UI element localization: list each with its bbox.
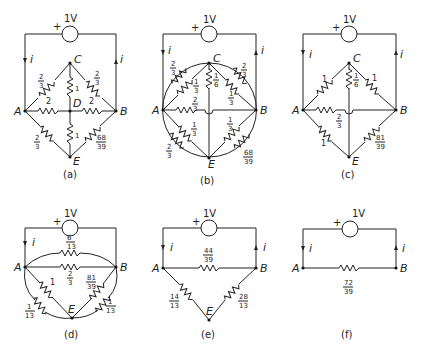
resistor-icon	[339, 265, 359, 271]
svg-text:E: E	[206, 305, 213, 318]
panel-e: 1V + i i 44 39 14 13 28 13 A B E (e)	[151, 208, 268, 340]
svg-text:i: i	[168, 44, 171, 57]
svg-text:B: B	[400, 262, 408, 275]
svg-text:2: 2	[68, 270, 72, 278]
svg-text:13: 13	[67, 243, 76, 251]
resistor-icon	[176, 78, 194, 96]
caption-d: (d)	[64, 329, 78, 340]
svg-text:3: 3	[242, 71, 246, 79]
svg-text:44: 44	[204, 247, 213, 255]
node-label-d: D	[73, 97, 81, 110]
node-label-a: A	[13, 105, 22, 118]
svg-text:13: 13	[25, 312, 34, 320]
svg-text:1V: 1V	[203, 208, 216, 219]
svg-text:3: 3	[337, 122, 341, 130]
svg-text:13: 13	[106, 307, 115, 315]
svg-text:i: i	[32, 236, 35, 249]
svg-text:i: i	[170, 241, 173, 254]
caption-e: (e)	[201, 329, 215, 340]
panel-c: 1V + i i 1 1 1 6 2 3 1 81 39	[291, 14, 408, 180]
svg-text:3: 3	[194, 87, 198, 95]
svg-text:3: 3	[68, 279, 72, 287]
svg-text:A: A	[151, 262, 160, 275]
resistor-icon	[38, 108, 58, 114]
svg-text:81: 81	[87, 274, 96, 282]
svg-text:A: A	[13, 261, 22, 274]
svg-text:68: 68	[244, 149, 253, 157]
svg-text:6: 6	[214, 81, 219, 89]
svg-text:i: i	[261, 44, 264, 57]
arrow-up-icon	[254, 245, 258, 250]
svg-text:1: 1	[214, 72, 218, 80]
svg-text:1: 1	[372, 74, 377, 83]
svg-text:1V: 1V	[64, 208, 77, 219]
panel-d: 1V + i 6 13 2 3 1 1 13 81 39 1	[13, 208, 128, 340]
svg-text:39: 39	[97, 143, 106, 151]
svg-text:E: E	[352, 155, 359, 168]
arrow-down-icon	[23, 58, 27, 63]
plus-sign: +	[53, 21, 61, 32]
svg-text:1: 1	[228, 116, 232, 124]
voltage-source-icon	[62, 26, 78, 42]
svg-text:i: i	[263, 241, 266, 254]
panel-a: 1V + i i 2 3 2 3 1 2 2 1 2	[13, 13, 128, 180]
svg-text:3: 3	[35, 143, 39, 151]
arrow-up-icon	[394, 245, 398, 250]
svg-text:C: C	[213, 52, 221, 65]
svg-text:3: 3	[228, 125, 232, 133]
svg-text:+: +	[333, 217, 341, 228]
svg-text:i: i	[400, 48, 403, 61]
svg-text:1: 1	[321, 139, 326, 148]
node-label-e: E	[73, 155, 80, 168]
resistor-icon	[67, 77, 73, 97]
svg-text:i: i	[309, 48, 312, 61]
voltage-source-icon	[201, 220, 217, 236]
svg-text:1: 1	[192, 121, 196, 129]
source-label: 1V	[64, 13, 77, 24]
current-label: i	[30, 53, 33, 66]
arrow-up-icon	[254, 50, 258, 55]
svg-text:A: A	[291, 262, 300, 275]
svg-text:1V: 1V	[343, 14, 356, 25]
caption-b: (b)	[200, 175, 214, 186]
svg-text:3: 3	[229, 99, 233, 107]
svg-text:39: 39	[344, 288, 353, 296]
svg-text:2: 2	[89, 97, 94, 106]
svg-text:1: 1	[27, 303, 31, 311]
svg-text:13: 13	[170, 302, 179, 310]
resistor-icon	[206, 69, 212, 89]
svg-text:1: 1	[75, 85, 79, 93]
arrow-up-icon	[114, 59, 118, 64]
svg-text:B: B	[120, 261, 128, 274]
svg-text:3: 3	[95, 79, 99, 87]
svg-text:68: 68	[97, 134, 106, 142]
svg-text:+: +	[53, 216, 61, 227]
svg-text:E: E	[208, 158, 215, 171]
svg-text:13: 13	[239, 302, 248, 310]
svg-text:1V: 1V	[352, 208, 365, 219]
svg-text:3: 3	[167, 152, 171, 160]
node-label-b: B	[120, 105, 128, 118]
resistor-icon	[316, 107, 336, 113]
arrow-down-icon	[23, 241, 27, 246]
svg-text:B: B	[260, 262, 268, 275]
panel-b: 1V + i i 2 3 2 3 2 3 68 39 1 3 1	[151, 14, 268, 186]
svg-text:3: 3	[171, 69, 175, 77]
resistor-icon	[67, 124, 73, 144]
resistor-icon	[38, 125, 56, 143]
resistor-icon	[199, 265, 219, 271]
resistor-icon	[82, 108, 102, 114]
arrow-down-icon	[161, 245, 165, 250]
svg-text:1: 1	[194, 78, 198, 86]
svg-text:B: B	[400, 104, 408, 117]
svg-text:3: 3	[192, 130, 196, 138]
svg-text:81: 81	[376, 134, 385, 142]
svg-text:72: 72	[344, 279, 353, 287]
svg-text:2: 2	[167, 143, 171, 151]
svg-text:C: C	[353, 52, 361, 65]
svg-text:1: 1	[354, 72, 358, 80]
svg-text:6: 6	[67, 234, 72, 242]
svg-text:1: 1	[229, 90, 233, 98]
svg-text:39: 39	[87, 283, 96, 291]
svg-text:i: i	[402, 242, 405, 255]
